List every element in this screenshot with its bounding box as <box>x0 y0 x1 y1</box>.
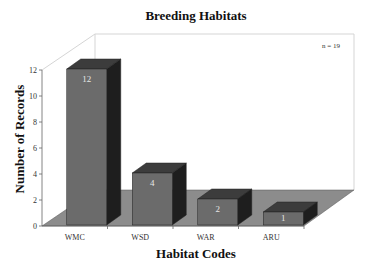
bar-value-label: 2 <box>216 204 221 214</box>
y-axis-ticks: 024681012 <box>29 66 42 231</box>
y-axis-label: Number of Records <box>12 85 27 194</box>
chart-title: Breeding Habitats <box>145 8 246 23</box>
bar-value-label: 12 <box>82 74 91 84</box>
y-tick-label: 8 <box>33 118 37 127</box>
x-axis-categories: WMCWSDWARARU <box>65 226 304 242</box>
x-category-label: ARU <box>263 233 280 242</box>
y-tick-label: 2 <box>33 196 37 205</box>
x-category-label: WAR <box>197 233 215 242</box>
bar-value-label: 1 <box>281 213 286 223</box>
sample-size-note: n = 19 <box>322 42 340 50</box>
bar-value-label: 4 <box>150 178 155 188</box>
x-category-label: WMC <box>65 233 85 242</box>
x-axis-label: Habitat Codes <box>156 246 236 261</box>
bar-wsd: 4 <box>132 163 186 225</box>
y-tick-label: 4 <box>33 170 37 179</box>
y-tick-label: 6 <box>33 144 37 153</box>
y-tick-label: 10 <box>29 92 37 101</box>
y-tick-label: 12 <box>29 66 37 75</box>
x-category-label: WSD <box>131 233 149 242</box>
bar-wmc: 12 <box>67 59 121 225</box>
bar-chart: Breeding Habitats 024681012 12421 WMCWSD… <box>0 0 373 269</box>
bar-war: 2 <box>198 189 252 225</box>
y-tick-label: 0 <box>33 222 37 231</box>
